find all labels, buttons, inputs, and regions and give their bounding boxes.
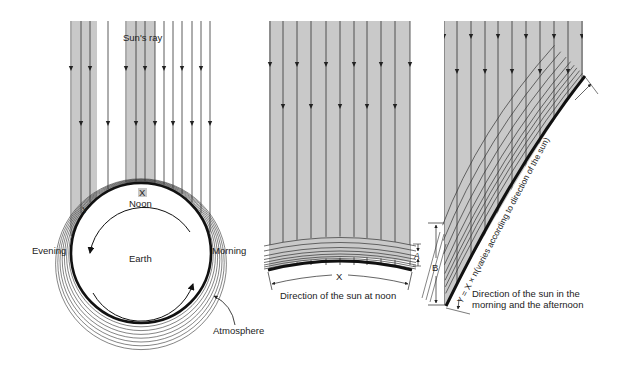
ray-arrow-icon bbox=[199, 66, 203, 71]
ray-arrow-icon bbox=[190, 121, 194, 126]
x-dim-tick-right bbox=[408, 272, 412, 290]
noon-caption: Direction of the sun at noon bbox=[280, 290, 396, 301]
atmosphere-pointer-icon bbox=[214, 296, 235, 325]
solar-radiation-diagram: Sun's ray X Y Noon Evening Morning Earth… bbox=[0, 0, 630, 366]
ray-arrow-icon bbox=[208, 121, 212, 126]
y-marker-left: Y bbox=[82, 205, 88, 215]
oblique-caption-line1: Direction of the sun in the bbox=[472, 288, 580, 299]
evening-label: Evening bbox=[32, 245, 66, 256]
ray-arrow-icon bbox=[180, 66, 184, 71]
y-dim-tick-top bbox=[586, 78, 598, 94]
earth-label: Earth bbox=[129, 253, 152, 264]
left-panel-globe: Sun's ray X Y Noon Evening Morning Earth… bbox=[32, 21, 264, 350]
x-marker-left: X bbox=[139, 187, 146, 198]
x-marker-middle: X bbox=[336, 271, 343, 282]
x-dim-arrow-right-icon bbox=[348, 275, 408, 284]
ray-arrow-icon bbox=[162, 66, 166, 71]
morning-label: Morning bbox=[212, 245, 246, 256]
middle-panel-noon: X A Direction of the sun at noon bbox=[264, 21, 421, 301]
right-panel-oblique: B Y = X × n(varies according to directio… bbox=[422, 21, 598, 314]
ray-arrow-icon bbox=[106, 121, 110, 126]
b-guide-line bbox=[426, 234, 444, 300]
noon-label: Noon bbox=[129, 198, 152, 209]
a-marker: A bbox=[413, 251, 420, 261]
shaded-ray-column bbox=[269, 21, 410, 247]
diagram-canvas: Sun's ray X Y Noon Evening Morning Earth… bbox=[0, 0, 630, 366]
x-dim-arrow-left-icon bbox=[272, 275, 332, 284]
atmosphere-label: Atmosphere bbox=[213, 325, 264, 336]
b-guide-line bbox=[430, 244, 446, 302]
x-dim-tick-left bbox=[268, 272, 272, 290]
oblique-caption-line2: morning and the afternoon bbox=[472, 299, 583, 310]
ray-arrow-icon bbox=[171, 121, 175, 126]
sun-ray-label: Sun's ray bbox=[123, 32, 163, 43]
